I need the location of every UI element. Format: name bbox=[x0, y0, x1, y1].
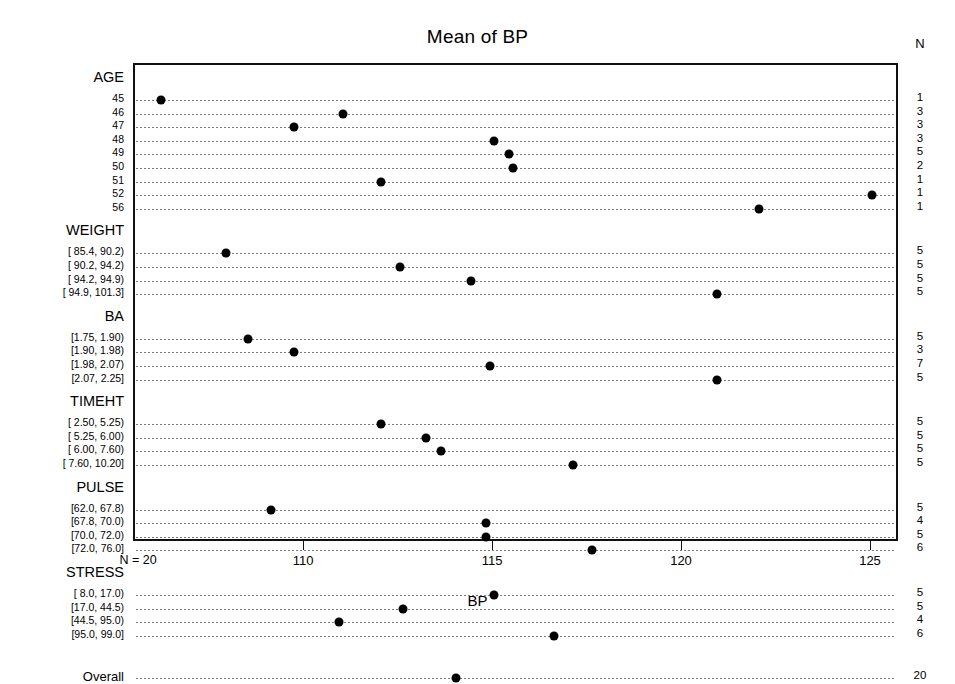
n-value: 5 bbox=[900, 259, 940, 271]
n-value: 2 bbox=[900, 160, 940, 172]
n-value: 6 bbox=[900, 628, 940, 640]
grid-dotted-line bbox=[135, 253, 896, 254]
data-point bbox=[550, 631, 559, 640]
grid-dotted-line bbox=[135, 537, 896, 538]
n-value: 3 bbox=[900, 119, 940, 131]
row-label: [ 7.60, 10.20] bbox=[63, 458, 124, 469]
data-point bbox=[395, 263, 404, 272]
grid-dotted-line bbox=[135, 523, 896, 524]
n-value: 1 bbox=[900, 174, 940, 186]
grid-dotted-line bbox=[135, 294, 896, 295]
n-value: 5 bbox=[900, 529, 940, 541]
row-label: [2.07, 2.25] bbox=[71, 372, 124, 383]
row-label: 48 bbox=[112, 134, 124, 145]
data-point bbox=[376, 177, 385, 186]
n-value: 5 bbox=[900, 372, 940, 384]
data-point bbox=[508, 164, 517, 173]
row-label: 50 bbox=[112, 161, 124, 172]
data-point bbox=[335, 618, 344, 627]
row-label: 51 bbox=[112, 174, 124, 185]
group-header-timeht: TIMEHT bbox=[70, 394, 124, 409]
row-label: [67.8, 70.0) bbox=[71, 516, 124, 527]
x-axis-title: BP bbox=[0, 592, 955, 609]
n-axis-note: N = 20 bbox=[119, 553, 156, 567]
data-point bbox=[713, 290, 722, 299]
data-point bbox=[289, 123, 298, 132]
grid-dotted-line bbox=[135, 114, 896, 115]
n-value: 5 bbox=[900, 444, 940, 456]
row-label: [72.0, 76.0] bbox=[71, 543, 124, 554]
row-label: [ 6.00, 7.60) bbox=[68, 444, 124, 455]
data-point bbox=[421, 433, 430, 442]
row-label: [62.0, 67.8) bbox=[71, 502, 124, 513]
data-point bbox=[244, 334, 253, 343]
x-tick bbox=[870, 541, 871, 550]
grid-dotted-line bbox=[135, 182, 896, 183]
group-header-weight: WEIGHT bbox=[66, 223, 124, 238]
x-tick-label: 120 bbox=[670, 553, 692, 568]
data-point bbox=[482, 532, 491, 541]
grid-dotted-line bbox=[135, 281, 896, 282]
n-value: 1 bbox=[900, 201, 940, 213]
data-point bbox=[868, 191, 877, 200]
row-label: 52 bbox=[112, 188, 124, 199]
grid-dotted-line bbox=[135, 366, 896, 367]
row-label: [ 85.4, 90.2) bbox=[68, 246, 124, 257]
n-value: 4 bbox=[900, 614, 940, 626]
n-value: 5 bbox=[900, 246, 940, 258]
n-value: 3 bbox=[900, 345, 940, 357]
row-label-column: AGE454647484950515256WEIGHT[ 85.4, 90.2)… bbox=[0, 63, 128, 541]
x-axis: 110115120125 bbox=[133, 541, 898, 542]
row-label: [ 94.2, 94.9) bbox=[68, 273, 124, 284]
grid-dotted-line bbox=[135, 510, 896, 511]
row-label: 47 bbox=[112, 120, 124, 131]
data-point bbox=[338, 109, 347, 118]
grid-dotted-line bbox=[135, 380, 896, 381]
group-header-stress: STRESS bbox=[66, 565, 124, 580]
chart-title: Mean of BP bbox=[0, 26, 955, 48]
grid-dotted-line bbox=[135, 424, 896, 425]
group-header-pulse: PULSE bbox=[76, 479, 124, 494]
data-point bbox=[713, 375, 722, 384]
plot-area bbox=[133, 63, 898, 541]
n-value: 1 bbox=[900, 92, 940, 104]
n-value: 1 bbox=[900, 187, 940, 199]
row-label: 49 bbox=[112, 147, 124, 158]
n-value: 5 bbox=[900, 331, 940, 343]
n-value: 6 bbox=[900, 543, 940, 555]
data-point bbox=[486, 362, 495, 371]
row-label: [1.75, 1.90) bbox=[71, 332, 124, 343]
n-value: 5 bbox=[900, 502, 940, 514]
grid-dotted-line bbox=[135, 451, 896, 452]
data-point bbox=[588, 546, 597, 555]
n-value: 3 bbox=[900, 106, 940, 118]
grid-dotted-line bbox=[135, 209, 896, 210]
data-point bbox=[754, 204, 763, 213]
n-value: 3 bbox=[900, 133, 940, 145]
data-point bbox=[569, 461, 578, 470]
n-value: 4 bbox=[900, 515, 940, 527]
grid-dotted-line bbox=[135, 100, 896, 101]
row-label: [ 2.50, 5.25) bbox=[68, 417, 124, 428]
n-value: 5 bbox=[900, 430, 940, 442]
row-label: [ 5.25, 6.00) bbox=[68, 431, 124, 442]
x-tick-label: 125 bbox=[859, 553, 881, 568]
row-label: [44.5, 95.0) bbox=[71, 615, 124, 626]
x-tick bbox=[681, 541, 682, 550]
data-point bbox=[157, 96, 166, 105]
row-label: [ 94.9, 101.3] bbox=[63, 287, 124, 298]
grid-dotted-line bbox=[135, 195, 896, 196]
data-point bbox=[221, 249, 230, 258]
n-column: N 1333521115555537555555456554620 bbox=[900, 63, 955, 541]
grid-dotted-line bbox=[135, 636, 896, 637]
n-value: 5 bbox=[900, 457, 940, 469]
x-tick bbox=[492, 541, 493, 550]
data-point bbox=[505, 150, 514, 159]
grid-dotted-line bbox=[135, 622, 896, 623]
data-point bbox=[482, 519, 491, 528]
group-header-age: AGE bbox=[93, 70, 124, 85]
grid-dotted-line bbox=[135, 141, 896, 142]
grid-dotted-line bbox=[135, 154, 896, 155]
data-point bbox=[376, 420, 385, 429]
